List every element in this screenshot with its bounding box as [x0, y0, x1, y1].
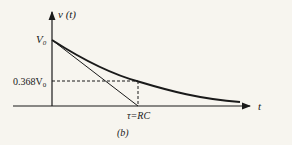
- y-axis-label: v (t): [58, 8, 76, 21]
- figure-caption: (b): [117, 127, 129, 139]
- decay-curve: [52, 40, 240, 102]
- x-axis-label: t: [258, 100, 262, 112]
- level-label: 0.368V0: [13, 76, 47, 89]
- rc-discharge-diagram: v (t) t V0 0.368V0 τ=RC (b): [0, 0, 292, 145]
- tau-label: τ=RC: [127, 110, 150, 121]
- v0-label: V0: [36, 33, 47, 47]
- tangent-line: [52, 40, 138, 106]
